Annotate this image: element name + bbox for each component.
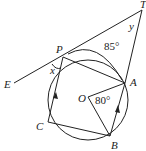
label-B: B bbox=[111, 139, 118, 151]
parallel-arrow-icon bbox=[115, 105, 120, 113]
label-T: T bbox=[140, 0, 146, 10]
geometry-diagram: T P A O B C E 85° 80° x y bbox=[0, 0, 146, 151]
angle-85-label: 85° bbox=[104, 40, 119, 52]
tangent-line-ET bbox=[14, 10, 142, 83]
angle-arc-85 bbox=[68, 50, 122, 80]
chord-CB bbox=[48, 122, 110, 136]
angle-y-label: y bbox=[128, 20, 134, 32]
label-E: E bbox=[3, 78, 11, 90]
label-O: O bbox=[78, 92, 86, 104]
label-P: P bbox=[55, 43, 63, 55]
label-C: C bbox=[36, 120, 44, 132]
angle-x-label: x bbox=[49, 64, 55, 76]
label-A: A bbox=[129, 76, 137, 88]
angle-80-label: 80° bbox=[95, 94, 110, 106]
